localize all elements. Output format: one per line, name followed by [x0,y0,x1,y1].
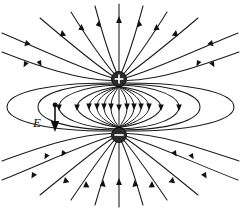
e-field-label: E [32,115,41,130]
positive-charge [111,71,126,86]
dipole-field-svg: E [0,0,241,211]
dipole-field-figure: E [0,0,241,211]
negative-charge [111,127,126,142]
